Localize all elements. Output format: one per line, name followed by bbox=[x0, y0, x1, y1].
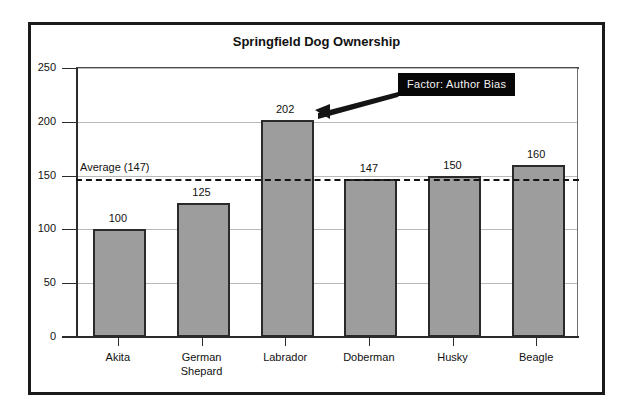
bar-value-label: 100 bbox=[83, 212, 153, 224]
x-axis-category-label: Beagle bbox=[488, 350, 584, 364]
x-axis-category-line: Doberman bbox=[321, 350, 417, 364]
average-reference-line bbox=[76, 179, 579, 181]
gridline bbox=[78, 68, 577, 69]
bar[interactable] bbox=[344, 179, 397, 337]
y-axis-tick bbox=[62, 229, 76, 230]
x-axis-category-line: Shepard bbox=[154, 364, 250, 378]
x-axis-tick bbox=[202, 337, 203, 346]
y-axis-tick-label: 100 bbox=[16, 222, 56, 234]
y-axis-tick-label: 200 bbox=[16, 115, 56, 127]
gridline bbox=[78, 176, 577, 177]
bar-value-label: 160 bbox=[501, 148, 571, 160]
bar[interactable] bbox=[177, 203, 230, 338]
chart-screenshot: Springfield Dog Ownership 05010015020025… bbox=[0, 0, 632, 419]
x-axis-tick bbox=[118, 337, 119, 346]
y-axis-tick bbox=[62, 283, 76, 284]
bar-value-label: 202 bbox=[250, 103, 320, 115]
average-reference-label: Average (147) bbox=[80, 161, 150, 173]
annotation-callout[interactable]: Factor: Author Bias bbox=[398, 73, 515, 96]
y-axis-tick-label: 50 bbox=[16, 276, 56, 288]
gridline bbox=[78, 122, 577, 123]
x-axis-tick bbox=[285, 337, 286, 346]
y-axis-tick bbox=[62, 122, 76, 123]
x-axis-tick bbox=[536, 337, 537, 346]
bar[interactable] bbox=[512, 165, 565, 337]
bar[interactable] bbox=[428, 176, 481, 337]
x-axis-category-line: Husky bbox=[405, 350, 501, 364]
y-axis-tick-label: 150 bbox=[16, 169, 56, 181]
x-axis-tick bbox=[369, 337, 370, 346]
bar-value-label: 125 bbox=[167, 186, 237, 198]
x-axis-category-label: Akita bbox=[70, 350, 166, 364]
x-axis-category-label: Labrador bbox=[237, 350, 333, 364]
x-axis-category-label: GermanShepard bbox=[154, 350, 250, 378]
bar-value-label: 150 bbox=[418, 159, 488, 171]
y-axis-tick-label: 250 bbox=[16, 61, 56, 73]
y-axis-tick bbox=[62, 68, 76, 69]
chart-title: Springfield Dog Ownership bbox=[28, 34, 605, 49]
x-axis-category-line: Labrador bbox=[237, 350, 333, 364]
gridline bbox=[78, 283, 577, 284]
y-axis-tick bbox=[62, 176, 76, 177]
x-axis-category-line: Akita bbox=[70, 350, 166, 364]
x-axis-category-label: Doberman bbox=[321, 350, 417, 364]
x-axis-category-line: German bbox=[154, 350, 250, 364]
bar[interactable] bbox=[261, 120, 314, 337]
plot-area bbox=[76, 68, 578, 337]
x-axis-category-label: Husky bbox=[405, 350, 501, 364]
y-axis-tick-label: 0 bbox=[16, 330, 56, 342]
bar-value-label: 147 bbox=[334, 162, 404, 174]
gridline bbox=[78, 229, 577, 230]
y-axis-tick bbox=[62, 337, 76, 338]
x-axis-category-line: Beagle bbox=[488, 350, 584, 364]
x-axis-tick bbox=[453, 337, 454, 346]
x-axis-line bbox=[62, 336, 579, 338]
bar[interactable] bbox=[93, 229, 146, 337]
